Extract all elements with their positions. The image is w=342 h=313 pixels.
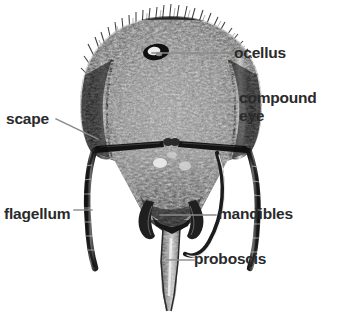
bee-head-anatomy-figure: ocellus compound eye scape flagellum man… — [0, 0, 342, 313]
label-scape: scape — [6, 110, 49, 128]
leader-lines-layer — [0, 0, 342, 313]
label-compound-eye: compound eye — [239, 89, 317, 125]
label-ocellus: ocellus — [234, 44, 286, 62]
label-flagellum: flagellum — [4, 205, 70, 223]
label-proboscis: proboscis — [194, 250, 266, 268]
leader-line-scape — [56, 119, 98, 139]
label-mandibles: mandibles — [218, 205, 293, 223]
